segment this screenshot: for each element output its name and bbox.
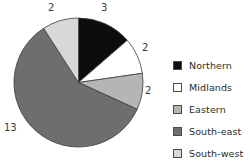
legend-item-eastern[interactable]: Eastern (173, 98, 250, 120)
legend-swatch-icon-south-east (173, 127, 182, 136)
legend-swatch-icon-midlands (173, 83, 182, 92)
legend-label-eastern: Eastern (189, 104, 226, 115)
legend-label-south-west: South-west (189, 148, 243, 159)
legend-label-northern: Northern (189, 60, 232, 71)
legend-label-midlands: Midlands (189, 82, 232, 93)
chart-legend: Northern Midlands Eastern South-east Sou… (173, 54, 250, 163)
legend-item-south-east[interactable]: South-east (173, 120, 250, 142)
legend-swatch-icon-south-west (173, 149, 182, 158)
legend-item-midlands[interactable]: Midlands (173, 76, 250, 98)
pie-svg (0, 0, 165, 163)
pie-slices (14, 18, 143, 147)
pie-chart-figure: 2 3 2 2 13 Northern Midlands Eastern Sou… (0, 0, 250, 163)
legend-swatch-icon-eastern (173, 105, 182, 114)
data-label-south-west: 2 (48, 3, 54, 13)
legend-swatch-icon-northern (173, 61, 182, 70)
data-label-midlands: 2 (142, 43, 148, 53)
data-label-eastern: 2 (145, 86, 151, 96)
data-label-northern: 3 (101, 3, 107, 13)
data-label-south-east: 13 (4, 123, 17, 133)
pie-plot-area: 2 3 2 2 13 (0, 0, 165, 163)
legend-item-northern[interactable]: Northern (173, 54, 250, 76)
legend-label-south-east: South-east (189, 126, 241, 137)
legend-item-south-west[interactable]: South-west (173, 142, 250, 163)
